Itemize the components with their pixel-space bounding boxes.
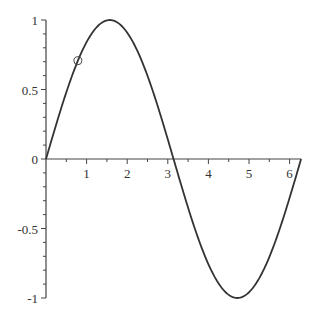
y-tick-label: -0.5	[17, 222, 38, 237]
y-tick-label: 1	[32, 13, 39, 28]
y-tick-label: 0	[32, 152, 39, 167]
y-tick-label: 0.5	[22, 83, 38, 98]
x-tick-label: 3	[165, 166, 172, 181]
x-tick-label: 4	[205, 166, 212, 181]
y-tick-label: -1	[27, 291, 38, 306]
x-tick-label: 5	[246, 166, 253, 181]
sine-plot: 12345610.50-0.5-1	[0, 0, 313, 317]
x-tick-label: 6	[286, 166, 293, 181]
x-tick-label: 1	[83, 166, 90, 181]
x-tick-label: 2	[124, 166, 131, 181]
